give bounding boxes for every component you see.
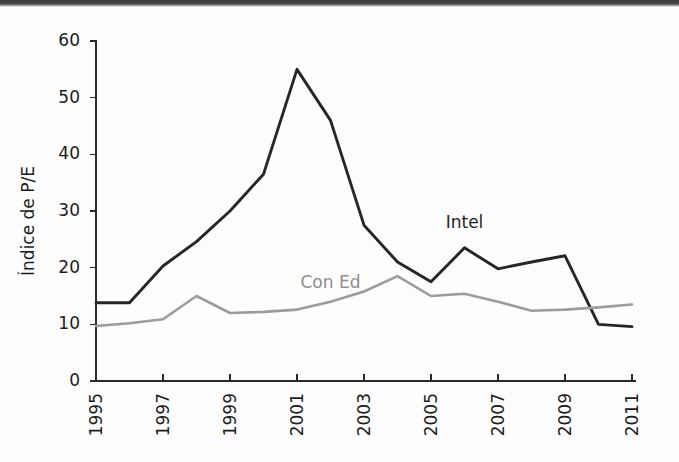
x-axis-tick-label: 2011 (622, 393, 642, 436)
chart-figure: 0102030405060 19951997199920012003200520… (0, 0, 679, 462)
series-line-con-ed (96, 276, 632, 326)
y-axis-tick-label: 10 (58, 313, 80, 333)
line-chart-plot: 0102030405060 19951997199920012003200520… (0, 0, 679, 462)
x-axis-tick-label: 2009 (555, 393, 575, 436)
x-axis-tick-label: 2001 (287, 393, 307, 436)
y-axis-tick-label: 0 (69, 370, 80, 390)
x-axis-tick-label: 2005 (421, 393, 441, 436)
series-label-con-ed: Con Ed (301, 272, 361, 292)
y-axis-tick-label: 40 (58, 143, 80, 163)
x-axis-tick-label: 2007 (488, 393, 508, 436)
y-axis-tick-label: 50 (58, 87, 80, 107)
x-axis-tick-label: 1995 (86, 393, 106, 436)
series-label-intel: Intel (446, 212, 484, 232)
y-axis-title: Índice de P/E (17, 166, 38, 276)
data-series-group (96, 69, 632, 326)
x-axis-tick-label: 1997 (153, 393, 173, 436)
y-axis-tick-label: 30 (58, 200, 80, 220)
x-axis-tick-mark-group (96, 374, 632, 381)
y-axis-tick-label: 60 (58, 30, 80, 50)
x-axis-tick-label: 2003 (354, 393, 374, 436)
series-line-intel (96, 69, 632, 326)
y-axis-tick-label: 20 (58, 257, 80, 277)
x-axis-tick-label: 1999 (220, 393, 240, 436)
y-axis-tick-mark-group (90, 41, 96, 381)
y-axis-tick-label-group: 0102030405060 (58, 30, 80, 390)
x-axis-tick-label-group: 199519971999200120032005200720092011 (86, 393, 642, 436)
